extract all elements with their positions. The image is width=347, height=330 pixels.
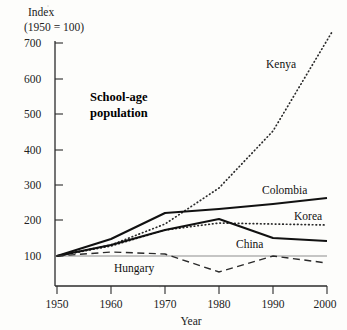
series-label-china: China [236,238,263,250]
x-tick-label-1960: 1960 [100,298,123,310]
y-tick-label-300: 300 [24,179,42,191]
y-axis-header-line2: (1950 = 100) [24,21,84,34]
series-label-hungary: Hungary [114,262,154,275]
series-label-kenya: Kenya [266,58,296,71]
x-tick-label-1980: 1980 [208,298,231,310]
plot-title-line1: School-age [90,90,148,104]
series-label-korea: Korea [294,210,322,222]
y-tick-label-500: 500 [24,108,42,120]
y-tick-label-100: 100 [24,250,42,262]
plot-title-line2: population [90,106,148,120]
series-label-colombia: Colombia [262,184,307,196]
y-tick-label-700: 700 [24,37,42,49]
x-tick-label-1990: 1990 [262,298,285,310]
x-tick-label-2000: 2000 [314,298,337,310]
x-tick-label-1970: 1970 [154,298,177,310]
x-tick-label-1950: 1950 [46,298,69,310]
y-tick-label-200: 200 [24,214,42,226]
y-tick-label-400: 400 [24,144,42,156]
y-tick-label-600: 600 [24,73,42,85]
chart-figure: Index (1950 = 100) 100 200 300 400 500 6… [0,0,347,330]
chart-background [0,0,347,330]
x-axis-label: Year [180,315,201,327]
school-age-population-line-chart: Index (1950 = 100) 100 200 300 400 500 6… [0,0,347,330]
y-axis-header-line1: Index [28,6,54,18]
